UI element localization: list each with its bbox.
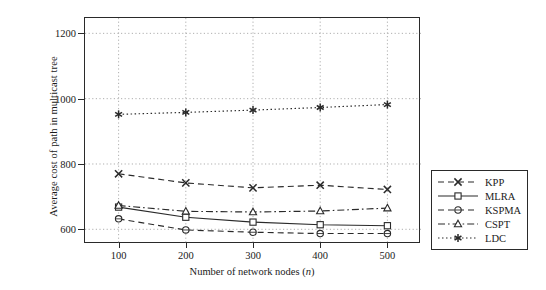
x-axis-tick [253,242,254,248]
data-point-circle [384,230,390,236]
legend-symbol-kspma [436,203,480,217]
x-axis-label: Number of network nodes (n) [84,266,420,277]
x-axis-tick-label: 100 [111,250,127,261]
data-point-square [384,223,390,229]
legend-label: KPP [480,177,504,188]
data-point-asterisk [115,110,122,118]
data-point-asterisk [384,101,391,109]
legend-item-kspma: KSPMA [436,203,521,217]
square-marker [183,214,189,220]
x-axis-tick-label: 500 [380,250,396,261]
square-marker [317,222,323,228]
legend-symbol-mlra [436,189,480,203]
legend-label: MLRA [480,191,515,202]
square-marker [250,219,256,225]
y-axis-label: Average cost of path in multicast tree [48,22,59,252]
legend-symbol-cspt [436,217,480,231]
data-point-square [317,222,323,228]
y-axis-tick [78,229,84,230]
x-axis-label-tail: ) [311,266,315,277]
legend-label: KSPMA [480,205,521,216]
plot-area: 60080010001200100200300400500 [84,17,420,243]
data-point-asterisk [455,234,462,242]
data-point-circle [183,227,189,233]
square-marker [455,193,461,199]
legend-item-cspt: CSPT [436,217,521,231]
plot-svg [85,18,421,244]
legend-item-mlra: MLRA [436,189,521,203]
square-marker [384,223,390,229]
data-point-square [250,219,256,225]
x-axis-tick [119,242,120,248]
y-axis-tick-label: 800 [60,158,76,169]
triangle-marker [384,204,391,211]
data-point-square [183,214,189,220]
y-axis-tick-label: 1000 [55,93,76,104]
data-point-square [455,193,461,199]
data-point-triangle [384,204,391,211]
legend-label: CSPT [480,219,510,230]
legend-symbol-kpp [436,175,480,189]
legend: KPPMLRAKSPMACSPTLDC [431,170,528,250]
x-axis-tick [320,242,321,248]
data-point-circle [455,207,461,213]
legend-symbol-ldc [436,231,480,245]
y-axis-tick [78,33,84,34]
x-axis-tick-label: 200 [178,250,194,261]
y-axis-tick [78,164,84,165]
y-axis-tick-label: 600 [60,224,76,235]
data-point-circle [317,230,323,236]
legend-label: LDC [480,233,506,244]
legend-item-kpp: KPP [436,175,521,189]
y-axis-tick [78,99,84,100]
x-axis-label-main: Number of network nodes ( [190,266,306,277]
x-axis-tick-label: 300 [245,250,261,261]
y-axis-tick-label: 1200 [55,28,76,39]
figure: Average cost of path in multicast tree N… [0,0,546,290]
legend-item-ldc: LDC [436,231,521,245]
data-point-circle [250,229,256,235]
x-axis-tick-label: 400 [312,250,328,261]
x-axis-tick [186,242,187,248]
data-point-circle [115,216,121,222]
x-axis-tick [387,242,388,248]
